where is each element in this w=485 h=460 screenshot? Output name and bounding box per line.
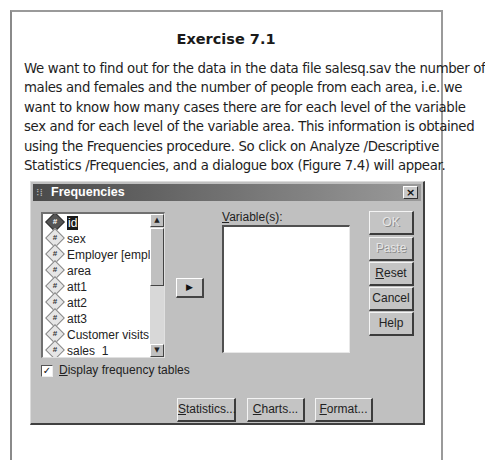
statistics-button[interactable]: Statistics... — [177, 398, 236, 422]
arrow-right-icon: ▶ — [186, 282, 193, 292]
source-variable-list[interactable]: #id #sex #Employer [empl] #area #att1 #a… — [41, 212, 165, 358]
paragraph-line: sex and for each level of the variable a… — [24, 117, 454, 136]
charts-button[interactable]: Charts... — [247, 398, 305, 422]
list-item-sales-1[interactable]: #sales_1 — [45, 343, 108, 358]
dialog-title: Frequencies — [51, 185, 125, 199]
reset-button[interactable]: Reset — [369, 262, 414, 286]
list-item-id[interactable]: #id — [45, 215, 78, 231]
display-frequency-tables-checkbox[interactable]: ✓ — [41, 365, 53, 377]
paragraph-line: using the Frequencies procedure. So clic… — [24, 137, 454, 156]
paragraph-line: We want to find out for the data in the … — [24, 59, 454, 78]
scroll-thumb[interactable] — [150, 228, 164, 286]
list-item-att2[interactable]: #att2 — [45, 295, 87, 311]
format-button[interactable]: Format... — [315, 398, 373, 422]
list-item-att3[interactable]: #att3 — [45, 311, 87, 327]
paste-button[interactable]: Paste — [369, 237, 414, 261]
paragraph-line: Statistics /Frequencies, and a dialogue … — [24, 156, 454, 175]
close-icon: × — [406, 186, 415, 199]
list-item-sex[interactable]: #sex — [45, 231, 86, 247]
dialog-titlebar[interactable]: ⁝⁞ Frequencies × — [33, 184, 421, 201]
exercise-title: Exercise 7.1 — [0, 31, 452, 47]
ok-button[interactable]: OK — [369, 211, 414, 235]
checkmark-icon: ✓ — [43, 365, 51, 376]
close-button[interactable]: × — [403, 186, 418, 199]
dialog-app-icon: ⁝⁞ — [36, 186, 43, 199]
selected-variables-list[interactable] — [222, 225, 350, 353]
list-item-att1[interactable]: #att1 — [45, 279, 87, 295]
numeric-variable-icon: # — [45, 340, 65, 358]
cancel-button[interactable]: Cancel — [369, 287, 414, 311]
variables-label: Variable(s): — [222, 210, 282, 224]
list-scrollbar[interactable]: ▲ ▼ — [150, 214, 164, 357]
list-item-customer-visits[interactable]: #Customer visits [cus — [45, 327, 165, 343]
list-item-area[interactable]: #area — [45, 263, 91, 279]
frequencies-dialog: ⁝⁞ Frequencies × #id #sex #Employer [emp… — [30, 181, 425, 425]
move-variable-button[interactable]: ▶ — [176, 278, 204, 298]
exercise-paragraph: We want to find out for the data in the … — [24, 59, 454, 175]
paragraph-line: want to know how many cases there are fo… — [24, 98, 454, 117]
scroll-down-button[interactable]: ▼ — [150, 344, 164, 357]
scroll-up-button[interactable]: ▲ — [150, 214, 164, 227]
display-frequency-tables-label[interactable]: Display frequency tables — [59, 363, 190, 377]
help-button[interactable]: Help — [369, 312, 414, 336]
paragraph-line: males and females and the number of peop… — [24, 78, 454, 97]
list-item-employer[interactable]: #Employer [empl] — [45, 247, 154, 263]
